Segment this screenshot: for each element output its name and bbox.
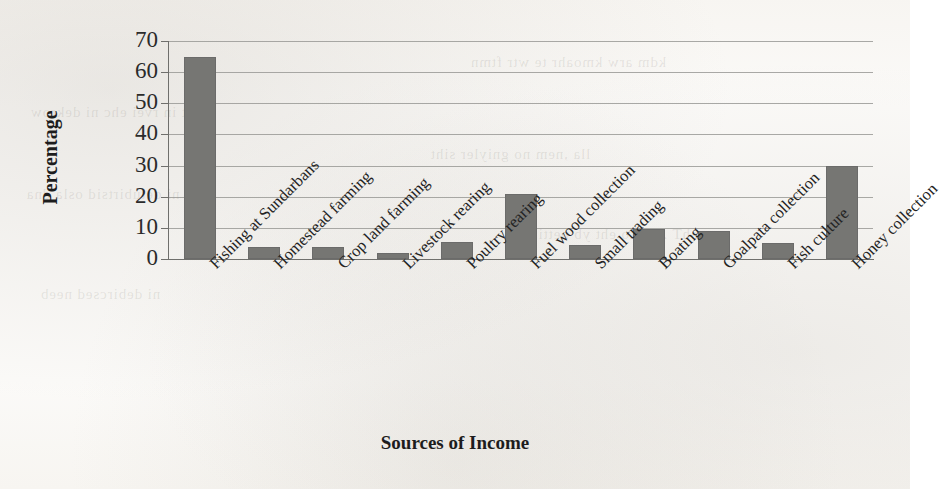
y-tick-mark-70	[161, 41, 168, 42]
y-axis-title-text: Percentage	[39, 110, 62, 204]
y-tick-mark-30	[161, 166, 168, 167]
y-tick-label-60: 60	[118, 58, 158, 84]
y-tick-label-50: 50	[118, 89, 158, 115]
y-tick-mark-20	[161, 197, 168, 198]
y-tick-label-70: 70	[118, 27, 158, 53]
y-tick-label-20: 20	[118, 183, 158, 209]
y-tick-label-0: 0	[118, 245, 158, 271]
y-tick-mark-10	[161, 228, 168, 229]
y-tick-label-10: 10	[118, 214, 158, 240]
x-axis-title: Sources of Income	[0, 432, 910, 454]
y-tick-label-40: 40	[118, 120, 158, 146]
x-axis-category-labels: Fishing at SundarbansHomestead farmingCr…	[168, 262, 874, 422]
y-tick-mark-60	[161, 72, 168, 73]
y-tick-mark-0	[161, 259, 168, 260]
y-tick-label-30: 30	[118, 152, 158, 178]
y-tick-mark-40	[161, 134, 168, 135]
y-tick-mark-50	[161, 103, 168, 104]
y-axis-tick-labels: 706050403020100	[110, 41, 158, 259]
y-axis-title: Percentage	[34, 72, 66, 242]
bar-fishing-at-sundarbans[interactable]	[184, 57, 216, 259]
